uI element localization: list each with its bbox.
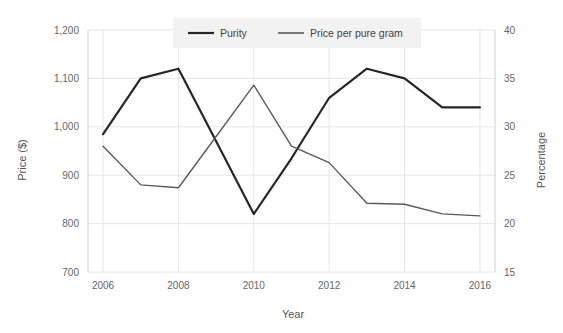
- x-tick-label: 2006: [92, 280, 115, 291]
- legend-label: Purity: [220, 27, 248, 39]
- x-axis-title: Year: [282, 308, 305, 320]
- y-tick-label: 900: [62, 170, 79, 181]
- y2-tick-label: 15: [504, 267, 516, 278]
- x-tick-label: 2012: [318, 280, 341, 291]
- y-tick-label: 1,200: [54, 25, 79, 36]
- series-line: [103, 69, 480, 214]
- x-axis-tick-labels: 200620082010201220142016: [92, 280, 492, 291]
- y2-tick-label: 40: [504, 25, 516, 36]
- legend: PurityPrice per pure gram: [173, 18, 421, 48]
- y2-tick-label: 30: [504, 121, 516, 132]
- y-tick-label: 700: [62, 267, 79, 278]
- series-lines: [103, 69, 480, 216]
- chart-container: 7008009001,0001,1001,200 152025303540 20…: [0, 0, 563, 333]
- y2-tick-label: 25: [504, 170, 516, 181]
- y2-tick-label: 35: [504, 73, 516, 84]
- legend-label: Price per pure gram: [310, 27, 403, 39]
- y-tick-label: 800: [62, 218, 79, 229]
- x-tick-label: 2014: [393, 280, 416, 291]
- axes: [88, 30, 495, 272]
- x-tick-label: 2008: [167, 280, 190, 291]
- y-axis-title: Price ($): [16, 139, 28, 181]
- y-tick-label: 1,000: [54, 121, 79, 132]
- x-tick-label: 2016: [469, 280, 492, 291]
- gridlines: [88, 30, 495, 272]
- y2-axis-title: Percentage: [535, 132, 547, 188]
- line-chart: 7008009001,0001,1001,200 152025303540 20…: [0, 0, 563, 333]
- y2-tick-label: 20: [504, 218, 516, 229]
- series-line: [103, 85, 480, 216]
- y2-axis-tick-labels: 152025303540: [504, 25, 516, 278]
- y-tick-label: 1,100: [54, 73, 79, 84]
- y-axis-tick-labels: 7008009001,0001,1001,200: [54, 25, 79, 278]
- x-tick-label: 2010: [243, 280, 266, 291]
